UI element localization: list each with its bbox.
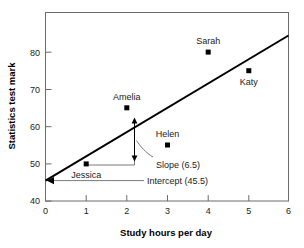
y-tick-label-70: 70 [30,85,40,95]
data-point-jessica: Jessica [71,161,101,180]
point-marker [246,68,251,73]
point-label-helen: Helen [156,129,180,139]
y-tick-label-80: 80 [30,48,40,58]
scatter-plot-figure: 80 70 60 50 40 0 1 2 3 4 5 6 Study hou [0,0,304,248]
x-tick-label-1: 1 [84,206,89,216]
x-tick-label-2: 2 [124,206,129,216]
x-tick-label-4: 4 [206,206,211,216]
point-label-katy: Katy [240,77,259,87]
x-axis-title: Study hours per day [120,227,213,238]
x-tick-label-5: 5 [246,206,251,216]
slope-guide [86,144,134,165]
intercept-annotation-label: Intercept (45.5) [147,176,208,186]
y-tick-label-60: 60 [30,122,40,132]
point-marker [124,105,129,110]
y-tick-label-40: 40 [30,196,40,206]
slope-leader-line [137,141,154,158]
x-tick-label-0: 0 [43,206,48,216]
data-point-sarah: Sarah [196,36,220,55]
point-label-sarah: Sarah [196,36,220,46]
y-axis-title: Statistics test mark [6,62,17,150]
data-point-amelia: Amelia [113,92,141,110]
data-point-helen: Helen [156,129,180,148]
regression-line [46,36,289,181]
point-label-amelia: Amelia [113,92,141,102]
x-tick-label-6: 6 [286,206,291,216]
slope-annotation-label: Slope (6.5) [156,160,200,170]
y-axis-tick-labels: 80 70 60 50 40 [30,48,40,207]
slope-rise-arrow [132,118,138,162]
point-label-jessica: Jessica [71,170,101,180]
x-axis-tick-labels: 0 1 2 3 4 5 6 [43,206,291,216]
chart-canvas: 80 70 60 50 40 0 1 2 3 4 5 6 Study hou [0,0,304,248]
y-tick-label-50: 50 [30,159,40,169]
point-marker [165,143,170,148]
point-marker [206,50,211,55]
x-axis-ticks [46,195,289,201]
x-tick-label-3: 3 [165,206,170,216]
data-point-katy: Katy [240,68,259,87]
point-marker [84,161,89,166]
